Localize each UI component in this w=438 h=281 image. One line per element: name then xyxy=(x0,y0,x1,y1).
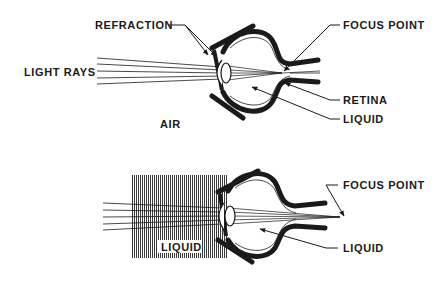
label-liquid-bottom: LIQUID xyxy=(343,242,384,254)
eye-in-air: REFRACTION LIGHT RAYS AIR FOCUS POINT RE… xyxy=(24,19,425,130)
label-air: AIR xyxy=(160,118,181,130)
eye-refraction-diagram: REFRACTION LIGHT RAYS AIR FOCUS POINT RE… xyxy=(0,0,438,281)
retina-line xyxy=(230,38,290,71)
label-retina: RETINA xyxy=(343,94,388,106)
label-liquid-top: LIQUID xyxy=(343,113,384,125)
label-liquid-box: LIQUID xyxy=(161,241,202,253)
label-light-rays: LIGHT RAYS xyxy=(24,66,96,78)
light-rays xyxy=(97,58,222,84)
label-focus-point-top: FOCUS POINT xyxy=(343,19,425,31)
unrefracted-rays xyxy=(228,208,340,224)
lens xyxy=(221,63,231,83)
eye-in-liquid: LIQUID FOCUS POINT LIQUID xyxy=(103,171,425,262)
label-refraction: REFRACTION xyxy=(95,19,173,31)
label-focus-point-bottom: FOCUS POINT xyxy=(343,179,425,191)
